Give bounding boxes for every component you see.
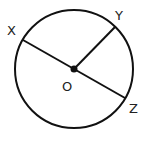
label-x: X [7,23,16,38]
radius-oy [74,27,115,69]
label-o: O [62,79,72,94]
label-y: Y [114,8,123,23]
label-z: Z [129,101,138,116]
center-point [71,66,78,73]
circle-diagram: X Y Z O [0,0,148,142]
